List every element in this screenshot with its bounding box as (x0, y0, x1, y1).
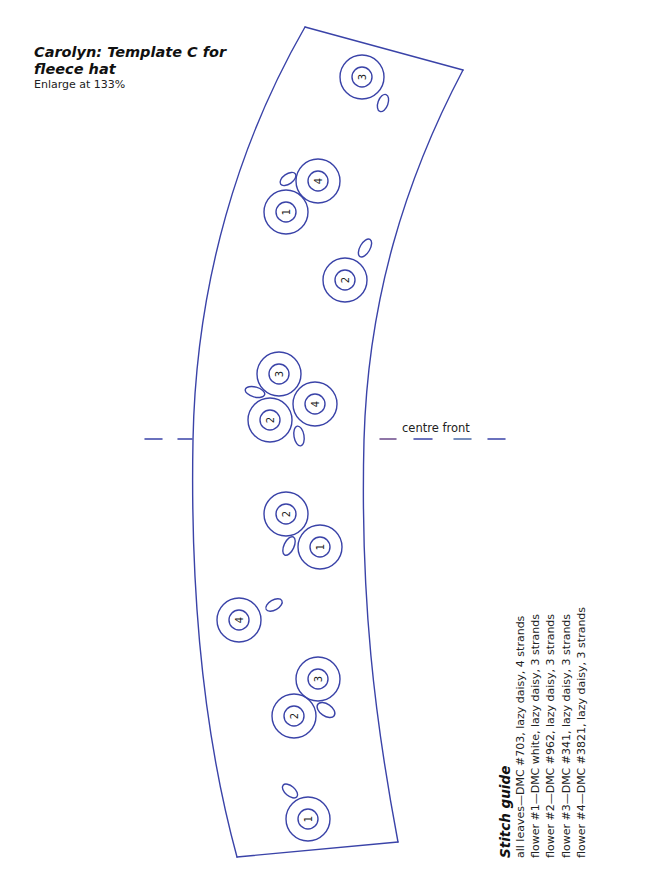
flower-number: 4 (234, 617, 245, 623)
stitch-guide-title: Stitch guide (497, 578, 513, 858)
flower-f1 (340, 55, 391, 113)
band-bottom-edge (237, 842, 398, 857)
flower-number: 2 (265, 417, 276, 423)
flower-number: 2 (281, 511, 292, 517)
stitch-guide-line-flower-2: flower #2—DMC #962, lazy daisy, 3 strand… (543, 578, 558, 858)
flower-f8 (264, 492, 308, 557)
flower-f4 (323, 237, 374, 302)
leaf-icon (292, 425, 305, 446)
flower-f2 (278, 159, 340, 203)
flower-number: 4 (310, 401, 321, 407)
flower-f10 (217, 596, 284, 642)
leaf-icon (278, 170, 298, 189)
flower-number: 1 (281, 209, 292, 215)
leaf-icon (264, 596, 285, 614)
flower-number: 2 (289, 713, 300, 719)
flower-number: 1 (303, 816, 314, 822)
leaf-icon (280, 535, 298, 557)
stitch-guide-line-leaves: all leaves—DMC #703, lazy daisy, 4 stran… (513, 578, 528, 858)
flower-number: 4 (313, 178, 324, 184)
flower-f7 (292, 382, 337, 447)
leaf-icon (280, 781, 300, 800)
stitch-guide-line-flower-4: flower #4—DMC #3821, lazy daisy, 3 stran… (574, 578, 589, 858)
leaf-icon (314, 699, 337, 720)
band-top-edge (305, 27, 463, 70)
flower-number: 3 (357, 74, 368, 80)
band-right-edge (363, 70, 463, 842)
flower-f13 (280, 781, 330, 841)
stitch-guide-line-flower-1: flower #1—DMC white, lazy daisy, 3 stran… (528, 578, 543, 858)
flower-number: 3 (313, 676, 324, 682)
flower-numbers: 3 4 1 2 3 2 4 2 1 4 3 2 1 (234, 74, 368, 822)
centre-front-label: centre front (402, 421, 470, 435)
leaf-icon (244, 385, 266, 400)
flower-number: 2 (340, 277, 351, 283)
stitch-guide: Stitch guide all leaves—DMC #703, lazy d… (497, 578, 589, 858)
band-left-edge (193, 27, 305, 857)
flower-number: 1 (315, 544, 326, 550)
stitch-guide-line-flower-3: flower #3—DMC #341, lazy daisy, 3 strand… (559, 578, 574, 858)
leaf-icon (356, 237, 375, 259)
leaf-icon (375, 93, 391, 113)
flower-number: 3 (274, 371, 285, 377)
